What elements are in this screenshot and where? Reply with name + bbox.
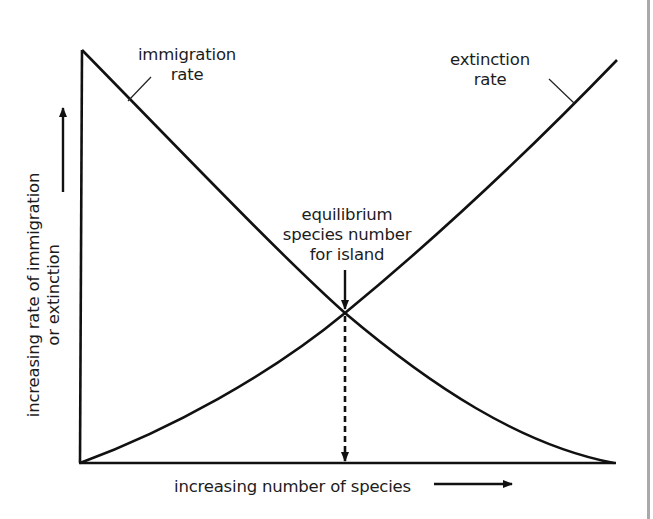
y-axis-label-line-1: increasing rate of immigration [24, 165, 44, 425]
equilibrium-label: equilibrium species number for island [282, 205, 412, 265]
immigration-rate-label: immigration rate [133, 45, 241, 85]
extinction-label-line-1: extinction [438, 50, 542, 70]
extinction-label-line-2: rate [438, 70, 542, 90]
x-axis-label: increasing number of species [174, 477, 434, 497]
immigration-label-line-2: rate [133, 65, 241, 85]
page-edge-border [647, 0, 650, 519]
equilibrium-label-line-3: for island [282, 245, 412, 265]
extinction-leader-line [549, 79, 574, 103]
equilibrium-label-line-2: species number [282, 225, 412, 245]
extinction-rate-label: extinction rate [438, 50, 542, 90]
y-axis [80, 50, 82, 463]
y-axis-label: increasing rate of immigration or extinc… [24, 165, 64, 425]
y-axis-label-line-2: or extinction [44, 165, 64, 425]
equilibrium-label-line-1: equilibrium [282, 205, 412, 225]
immigration-label-line-1: immigration [133, 45, 241, 65]
